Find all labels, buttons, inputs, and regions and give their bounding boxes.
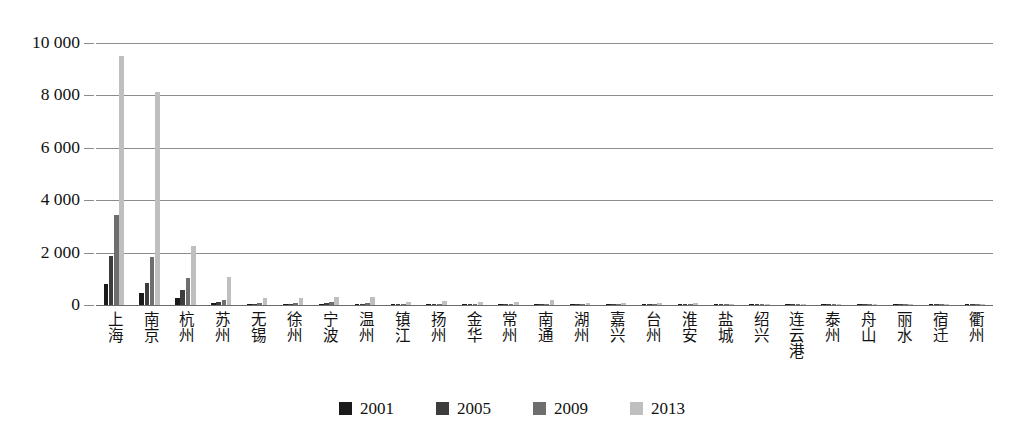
x-axis-label: 金华 xyxy=(465,311,481,343)
bar xyxy=(801,304,806,305)
bar xyxy=(693,303,698,305)
bar xyxy=(114,215,119,305)
y-tick-label: 10 000 xyxy=(0,34,80,52)
legend-label: 2001 xyxy=(360,400,394,417)
legend-item[interactable]: 2001 xyxy=(339,400,394,417)
bar xyxy=(498,304,503,305)
bar xyxy=(790,304,795,305)
bar xyxy=(647,304,652,305)
bar xyxy=(293,303,298,305)
bar xyxy=(263,298,268,305)
bar xyxy=(227,277,232,305)
legend-label: 2013 xyxy=(651,400,685,417)
legend-item[interactable]: 2013 xyxy=(630,400,685,417)
bar xyxy=(391,304,396,305)
bar xyxy=(616,304,621,305)
bar xyxy=(903,304,908,305)
bar xyxy=(473,304,478,305)
y-tick-label: 4 000 xyxy=(0,191,80,209)
bar xyxy=(478,302,483,305)
x-axis-label: 常州 xyxy=(501,311,517,343)
bar xyxy=(724,304,729,305)
bar-group xyxy=(570,43,591,305)
bar-group xyxy=(642,43,663,305)
bar xyxy=(642,304,647,305)
bar xyxy=(426,304,431,305)
x-axis-label: 丽水 xyxy=(895,311,911,343)
bar xyxy=(180,290,185,305)
x-axis-label: 南通 xyxy=(537,311,553,343)
legend-item[interactable]: 2009 xyxy=(533,400,588,417)
bar xyxy=(939,304,944,305)
bar xyxy=(755,304,760,305)
bar-group xyxy=(534,43,555,305)
bar xyxy=(334,297,339,305)
y-tick-label: 8 000 xyxy=(0,87,80,105)
chart-legend: 2001200520092013 xyxy=(0,400,1024,417)
x-axis-label: 台州 xyxy=(644,311,660,343)
y-tick-mark xyxy=(84,253,94,254)
x-axis-label: 徐州 xyxy=(285,311,301,343)
bar xyxy=(150,257,155,305)
bar xyxy=(406,302,411,305)
bar xyxy=(319,304,324,305)
y-tick-label: 6 000 xyxy=(0,139,80,157)
bar xyxy=(944,304,949,305)
bar-group xyxy=(247,43,268,305)
bar xyxy=(360,304,365,305)
bar xyxy=(929,304,934,305)
bar xyxy=(826,304,831,305)
bar xyxy=(109,256,114,305)
x-axis-label: 南京 xyxy=(142,311,158,343)
bar xyxy=(211,303,216,305)
x-axis-label: 扬州 xyxy=(429,311,445,343)
x-axis-label: 苏州 xyxy=(214,311,230,343)
bar xyxy=(575,304,580,305)
legend-item[interactable]: 2005 xyxy=(436,400,491,417)
bar xyxy=(965,304,970,305)
bar-group xyxy=(929,43,950,305)
x-axis-label: 上海 xyxy=(106,311,122,343)
bar xyxy=(688,304,693,305)
bar-group xyxy=(283,43,304,305)
bar xyxy=(606,304,611,305)
x-axis-label: 淮安 xyxy=(680,311,696,343)
bar xyxy=(191,246,196,305)
bar xyxy=(257,303,262,305)
bar xyxy=(678,304,683,305)
bar xyxy=(570,304,575,305)
x-axis-label: 镇江 xyxy=(393,311,409,343)
bar xyxy=(580,304,585,305)
bar xyxy=(837,304,842,305)
y-tick-mark xyxy=(84,95,94,96)
bar xyxy=(544,304,549,305)
bar xyxy=(288,304,293,305)
bar xyxy=(621,303,626,305)
bar xyxy=(898,304,903,305)
bar xyxy=(442,301,447,305)
legend-label: 2009 xyxy=(554,400,588,417)
x-axis-label: 盐城 xyxy=(716,311,732,343)
y-tick-mark xyxy=(84,200,94,201)
x-axis-label: 宿迁 xyxy=(931,311,947,343)
bar xyxy=(329,302,334,305)
bar xyxy=(539,304,544,305)
bar xyxy=(155,92,160,305)
bar-group xyxy=(498,43,519,305)
bar xyxy=(509,304,514,305)
bar xyxy=(908,304,913,305)
bar xyxy=(503,304,508,305)
bar xyxy=(796,304,801,305)
bar xyxy=(222,300,227,306)
bar xyxy=(299,298,304,305)
bar-group xyxy=(139,43,160,305)
x-axis-label: 舟山 xyxy=(859,311,875,343)
bar xyxy=(586,303,591,305)
bar xyxy=(401,304,406,305)
y-tick-mark xyxy=(84,43,94,44)
bar xyxy=(893,304,898,305)
bar-group xyxy=(893,43,914,305)
bar xyxy=(873,304,878,305)
bar xyxy=(396,304,401,305)
bar xyxy=(785,304,790,305)
